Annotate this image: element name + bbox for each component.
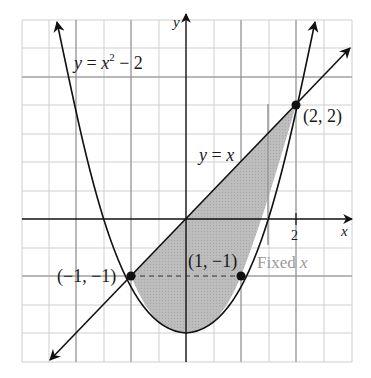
x-tick-label-2: 2 (291, 228, 298, 243)
point-2-2 (292, 101, 301, 110)
point-label-2-2: (2, 2) (303, 106, 342, 127)
point-1-neg1 (237, 272, 246, 281)
point-label-neg1-neg1: (−1, −1) (57, 266, 116, 287)
x-axis-label: x (340, 223, 348, 239)
y-axis-label: y (171, 14, 180, 30)
point-neg1-neg1 (127, 272, 136, 281)
fixed-x-label: Fixed x (257, 253, 308, 272)
parabola-label: y = x2 − 2 (72, 51, 143, 73)
figure-region-between-curves: y = x2 − 2 y = x y x 2 (−1, −1) (1, −1) … (0, 0, 371, 378)
line-label: y = x (197, 145, 234, 165)
point-label-1-neg1: (1, −1) (188, 251, 237, 272)
